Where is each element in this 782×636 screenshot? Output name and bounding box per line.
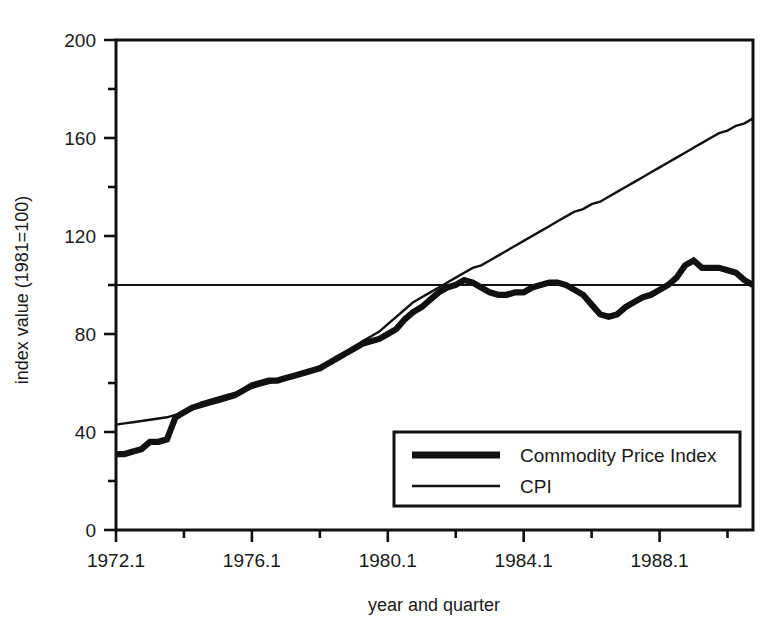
- x-tick-label: 1984.1: [495, 550, 553, 571]
- y-tick-label: 40: [75, 422, 96, 443]
- x-tick-label: 1980.1: [359, 550, 417, 571]
- y-tick-label: 120: [64, 226, 96, 247]
- x-tick-label: 1972.1: [87, 550, 145, 571]
- legend-label-commodity-price-index: Commodity Price Index: [520, 445, 717, 466]
- y-axis-title: index value (1981=100): [12, 196, 32, 385]
- chart-legend: Commodity Price Index CPI: [394, 432, 740, 506]
- chart-figure: 1972.11976.11980.11984.11988.1 040801201…: [0, 0, 782, 636]
- y-tick-label: 160: [64, 128, 96, 149]
- y-tick-label: 80: [75, 324, 96, 345]
- line-chart: 1972.11976.11980.11984.11988.1 040801201…: [0, 0, 782, 636]
- legend-box: [394, 432, 740, 506]
- x-tick-label: 1976.1: [223, 550, 281, 571]
- x-axis-title: year and quarter: [368, 595, 500, 615]
- y-tick-label: 0: [85, 520, 96, 541]
- x-tick-label: 1988.1: [631, 550, 689, 571]
- y-tick-label: 200: [64, 30, 96, 51]
- legend-label-cpi: CPI: [520, 476, 552, 497]
